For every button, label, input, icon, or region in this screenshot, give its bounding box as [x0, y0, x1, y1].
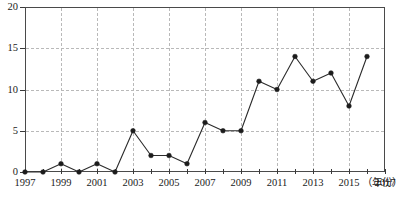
data-point	[221, 128, 226, 133]
data-point	[239, 128, 244, 133]
data-point	[185, 161, 190, 166]
data-point	[347, 104, 352, 109]
data-point	[59, 161, 64, 166]
data-point	[257, 79, 262, 84]
series-markers	[23, 54, 370, 174]
data-point	[41, 170, 46, 175]
data-point	[95, 161, 100, 166]
data-point	[131, 128, 136, 133]
data-point	[275, 87, 280, 92]
data-point	[77, 170, 82, 175]
line-chart-figure: 05101520 1997199920012003200520072009201…	[0, 0, 417, 207]
data-point	[365, 54, 370, 59]
data-point	[311, 79, 316, 84]
data-point	[149, 153, 154, 158]
series-line	[25, 57, 367, 173]
data-point	[293, 54, 298, 59]
data-point	[329, 71, 334, 76]
data-point	[113, 170, 118, 175]
data-point	[167, 153, 172, 158]
data-point	[203, 120, 208, 125]
data-series	[0, 0, 417, 207]
data-point	[23, 170, 28, 175]
